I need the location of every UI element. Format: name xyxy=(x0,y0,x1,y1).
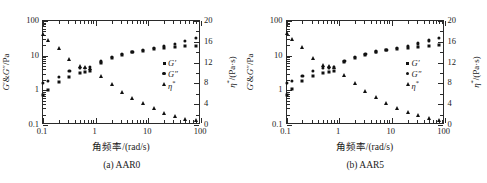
x-axis-title-b: 角频率/(rad/s) xyxy=(286,139,444,153)
x-tick-minor xyxy=(189,21,190,24)
x-tick-minor xyxy=(146,21,147,24)
x-tick xyxy=(148,118,149,123)
panel-caption-b: (b) AAR5 xyxy=(244,160,487,170)
y-tick-left-minor xyxy=(287,98,290,99)
data-point xyxy=(83,65,87,69)
x-tick xyxy=(392,21,393,26)
data-point xyxy=(173,114,177,118)
y-tick-left-minor xyxy=(287,59,290,60)
x-tick-minor xyxy=(371,120,372,123)
x-tick-minor xyxy=(384,120,385,123)
y-tick-label-right: 20 xyxy=(204,15,213,25)
data-point xyxy=(78,72,81,75)
y-tick-right xyxy=(194,83,199,84)
y-tick-right-minor xyxy=(196,94,199,95)
y-tick-right xyxy=(438,63,443,64)
x-tick xyxy=(201,118,202,123)
x-tick-minor xyxy=(84,120,85,123)
legend-item-eta-star: η* xyxy=(160,79,178,90)
y-tick-left-minor xyxy=(287,63,290,64)
x-tick xyxy=(339,118,340,123)
x-tick-minor xyxy=(75,21,76,24)
x-tick-minor xyxy=(429,21,430,24)
y-tick-label-right: 12 xyxy=(204,57,213,67)
x-tick-minor xyxy=(127,120,128,123)
x-tick-minor xyxy=(88,21,89,24)
square-marker-icon xyxy=(160,62,168,65)
data-point xyxy=(327,70,330,73)
x-tick-minor xyxy=(127,21,128,24)
y-tick-label-right: 4 xyxy=(204,98,208,108)
data-point xyxy=(42,94,45,97)
triangle-marker-icon xyxy=(404,82,412,86)
x-tick-minor xyxy=(387,120,388,123)
y-tick-left-minor xyxy=(287,45,290,46)
x-tick xyxy=(392,118,393,123)
data-point xyxy=(285,81,288,84)
x-tick-minor xyxy=(380,120,381,123)
x-tick-minor xyxy=(189,120,190,123)
x-tick-minor xyxy=(75,120,76,123)
x-tick-minor xyxy=(424,21,425,24)
x-tick-minor xyxy=(355,21,356,24)
y-tick-right xyxy=(438,21,443,22)
x-tick-minor xyxy=(180,120,181,123)
x-tick-minor xyxy=(442,120,443,123)
y-tick-label-right: 12 xyxy=(448,57,457,67)
x-tick-minor xyxy=(140,21,141,24)
x-tick-minor xyxy=(199,120,200,123)
data-point xyxy=(290,79,293,82)
y-tick-left-minor xyxy=(287,24,290,25)
x-tick-minor xyxy=(312,120,313,123)
y-tick-right-minor xyxy=(440,31,443,32)
rheology-figure: G′&G″/Pa η*/(Pa·s) 角频率/(rad/s) (a) AAR0 … xyxy=(0,0,487,183)
x-tick-minor xyxy=(80,21,81,24)
x-tick-minor xyxy=(318,21,319,24)
data-point xyxy=(162,111,166,115)
legend-item-eta-star: η* xyxy=(404,79,422,90)
y-tick-right xyxy=(438,104,443,105)
y-tick-left-minor xyxy=(287,29,290,30)
data-point xyxy=(427,39,430,42)
x-tick-minor xyxy=(323,120,324,123)
x-tick-minor xyxy=(323,21,324,24)
x-tick-minor xyxy=(137,120,138,123)
data-point xyxy=(99,74,103,78)
x-tick xyxy=(445,21,446,26)
x-tick-minor xyxy=(143,120,144,123)
legend-label-eta-star: η* xyxy=(168,78,175,91)
data-point xyxy=(327,64,331,68)
data-point xyxy=(322,71,325,74)
x-tick-minor xyxy=(364,120,365,123)
data-point xyxy=(152,106,156,110)
y-tick-left-minor xyxy=(43,61,46,62)
data-point xyxy=(57,75,60,78)
y-tick-left-minor xyxy=(43,74,46,75)
x-tick-minor xyxy=(80,120,81,123)
x-tick-minor xyxy=(302,21,303,24)
y-tick-left-minor xyxy=(287,104,290,105)
y-tick-label-right: 0 xyxy=(448,119,452,129)
y-tick-right-minor xyxy=(440,94,443,95)
y-tick-left-minor xyxy=(287,57,290,58)
y-tick-label-right: 8 xyxy=(204,77,208,87)
x-tick-minor xyxy=(68,21,69,24)
y-tick-left-minor xyxy=(43,69,46,70)
y-tick-right xyxy=(194,104,199,105)
y-tick-left-minor xyxy=(43,59,46,60)
y-tick-right-minor xyxy=(196,31,199,32)
data-point xyxy=(68,75,71,78)
y-tick-label-right: 0 xyxy=(204,119,208,129)
y-tick-left-minor xyxy=(43,29,46,30)
data-point xyxy=(417,45,420,48)
data-point xyxy=(311,56,315,60)
x-tick xyxy=(96,118,97,123)
x-tick-minor xyxy=(91,21,92,24)
y-axis-title-left-b: G′&G″/Pa xyxy=(245,53,255,90)
data-point xyxy=(374,95,378,99)
y-tick-left-minor xyxy=(43,45,46,46)
x-tick xyxy=(201,21,202,26)
y-tick-left-minor xyxy=(287,26,290,27)
data-point xyxy=(47,88,50,91)
x-tick-minor xyxy=(164,21,165,24)
